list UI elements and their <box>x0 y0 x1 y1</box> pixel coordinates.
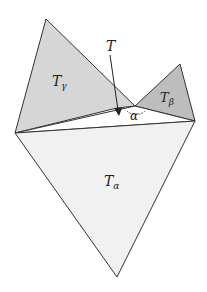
triangle-t-alpha <box>15 121 195 277</box>
label-t: T <box>106 38 117 54</box>
triangle-diagram: Tγ Tβ Tα T α <box>0 0 207 292</box>
label-angle-alpha: α <box>130 109 138 123</box>
